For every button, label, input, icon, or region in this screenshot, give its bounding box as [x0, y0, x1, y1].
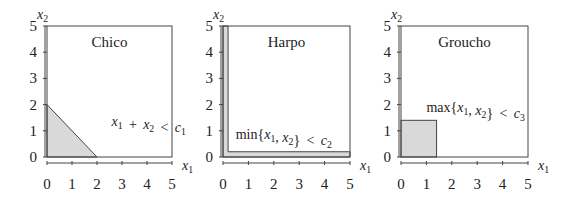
chico-ytick-label: 3 — [30, 70, 38, 86]
harpo-xtick-label: 1 — [245, 176, 253, 192]
chico-xtick-label: 0 — [43, 176, 51, 192]
groucho-ytick-label: 2 — [384, 97, 392, 113]
chico-xtick-label: 5 — [168, 176, 176, 192]
harpo-ytick-label: 4 — [206, 44, 214, 60]
groucho-xtick-label: 1 — [423, 176, 431, 192]
harpo-xtick-label: 3 — [295, 176, 303, 192]
groucho-ytick-label: 0 — [384, 149, 392, 165]
groucho-xtick-label: 3 — [473, 176, 481, 192]
chico-annotation: x1 + x2 < c1 — [111, 114, 187, 137]
groucho-ytick-label: 5 — [384, 18, 392, 34]
groucho-title: Groucho — [438, 34, 491, 50]
harpo-ytick-label: 1 — [206, 123, 214, 139]
figure: 012345012345x1x2Chicox1 + x2 < c10123450… — [0, 0, 574, 203]
harpo-ytick-label: 5 — [206, 18, 214, 34]
chico-xtick-label: 4 — [143, 176, 151, 192]
groucho-ylabel: x2 — [390, 7, 402, 24]
groucho-annotation: max{x1, x2} < c3 — [426, 100, 525, 123]
groucho-xtick-label: 0 — [397, 176, 405, 192]
harpo-xlabel: x1 — [359, 158, 371, 175]
chico-xtick-label: 3 — [118, 176, 126, 192]
harpo-xtick-label: 2 — [270, 176, 278, 192]
groucho-xtick-label: 2 — [448, 176, 456, 192]
chico-ytick-label: 5 — [30, 18, 38, 34]
groucho-ytick-label: 4 — [384, 44, 392, 60]
groucho-xtick-label: 4 — [499, 176, 507, 192]
harpo-ytick-label: 3 — [206, 70, 214, 86]
chico-region — [47, 105, 97, 157]
chico-xtick-label: 2 — [93, 176, 101, 192]
chico-ylabel: x2 — [36, 7, 48, 24]
chico-ytick-label: 1 — [30, 123, 38, 139]
harpo-annotation: min{x1, x2} < c2 — [236, 127, 332, 150]
harpo-xtick-label: 5 — [346, 176, 354, 192]
chico-title: Chico — [92, 34, 128, 50]
harpo-ytick-label: 0 — [206, 149, 214, 165]
harpo-title: Harpo — [268, 34, 306, 50]
harpo-ytick-label: 2 — [206, 97, 214, 113]
groucho-xtick-label: 5 — [524, 176, 532, 192]
groucho-ytick-label: 1 — [384, 123, 392, 139]
chico-ytick-label: 4 — [30, 44, 38, 60]
chico-xtick-label: 1 — [68, 176, 76, 192]
chico-ytick-label: 0 — [30, 149, 38, 165]
groucho-region — [401, 120, 437, 157]
chico-xlabel: x1 — [181, 158, 193, 175]
harpo-xtick-label: 4 — [321, 176, 329, 192]
harpo-xtick-label: 0 — [219, 176, 227, 192]
harpo-ylabel: x2 — [212, 7, 224, 24]
chico-ytick-label: 2 — [30, 97, 38, 113]
groucho-xlabel: x1 — [537, 158, 549, 175]
groucho-ytick-label: 3 — [384, 70, 392, 86]
